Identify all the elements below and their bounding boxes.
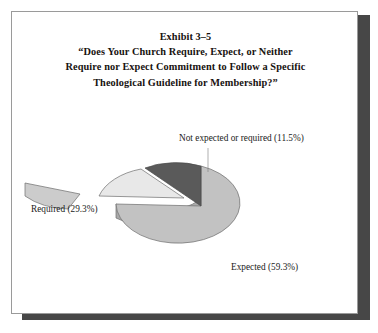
- pie-chart: Not expected or required (11.5%) Require…: [12, 12, 359, 315]
- exhibit-card: Exhibit 3–5 “Does Your Church Require, E…: [11, 11, 358, 314]
- chart-page: Exhibit 3–5 “Does Your Church Require, E…: [0, 0, 378, 333]
- pie-chart-svg: [12, 12, 359, 315]
- pie-slice-label-expected: Expected (59.3%): [231, 262, 298, 273]
- pie-slice-label-not-expected: Not expected or required (11.5%): [179, 133, 304, 144]
- pie-slice-label-required: Required (29.3%): [31, 204, 98, 215]
